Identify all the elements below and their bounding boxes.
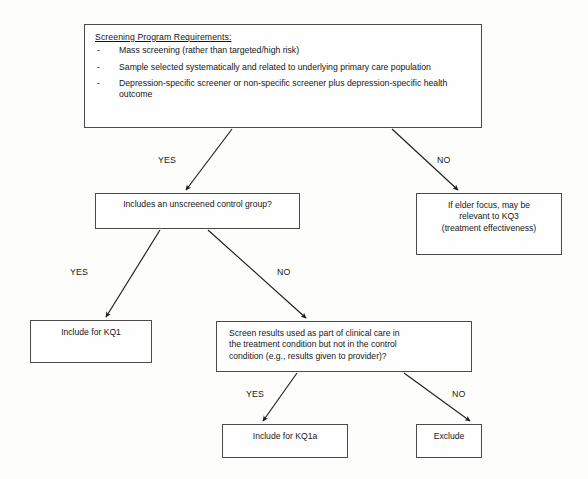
- edge-label-no-screen-results: NO: [452, 389, 466, 399]
- requirements-list: - Mass screening (rather than targeted/h…: [95, 45, 471, 100]
- requirements-item-text: Mass screening (rather than targeted/hig…: [119, 45, 299, 55]
- node-text: Include for KQ1a: [253, 431, 318, 441]
- flowchart-canvas: Screening Program Requirements: - Mass s…: [0, 0, 588, 479]
- node-text: Includes an unscreened control group?: [123, 199, 272, 209]
- node-text-line: Screen results used as part of clinical …: [229, 328, 471, 339]
- node-text: Exclude: [434, 431, 465, 441]
- node-exclude: Exclude: [416, 424, 482, 458]
- node-include-for-kq1a: Include for KQ1a: [222, 424, 348, 458]
- node-includes-unscreened-control-group: Includes an unscreened control group?: [95, 193, 300, 229]
- requirements-item: - Mass screening (rather than targeted/h…: [95, 45, 471, 56]
- requirements-item: - Sample selected systematically and rel…: [95, 62, 471, 73]
- node-screening-program-requirements: Screening Program Requirements: - Mass s…: [84, 24, 482, 128]
- node-text-line: condition (e.g., results given to provid…: [229, 351, 471, 362]
- requirements-item: - Depression-specific screener or non-sp…: [95, 78, 471, 100]
- requirements-heading: Screening Program Requirements:: [95, 32, 471, 43]
- edge-control-group-to-include-kq1: [106, 230, 160, 317]
- edge-screen-results-to-include-kq1a: [263, 373, 297, 421]
- node-text-line: relevant to KQ3: [422, 211, 556, 222]
- node-text-line: (treatment effectiveness): [422, 223, 556, 234]
- node-text-line: If elder focus, may be: [422, 200, 556, 211]
- node-elder-focus-kq3: If elder focus, may be relevant to KQ3 (…: [416, 193, 562, 255]
- edge-label-no-requirements: NO: [437, 155, 451, 165]
- requirements-item-text: Sample selected systematically and relat…: [119, 62, 431, 72]
- bullet-dash-icon: -: [97, 78, 100, 89]
- bullet-dash-icon: -: [97, 45, 100, 56]
- node-text: Include for KQ1: [61, 327, 121, 337]
- edge-label-yes-screen-results: YES: [246, 389, 264, 399]
- requirements-item-text: Depression-specific screener or non-spec…: [119, 78, 447, 99]
- edge-requirements-to-control-group: [186, 129, 232, 190]
- edge-label-yes-requirements: YES: [158, 155, 176, 165]
- node-text-line: the treatment condition but not in the c…: [229, 339, 471, 350]
- edge-label-yes-control-group: YES: [70, 267, 88, 277]
- node-screen-results-clinical-care: Screen results used as part of clinical …: [216, 321, 472, 372]
- node-include-for-kq1: Include for KQ1: [30, 320, 152, 363]
- edge-label-no-control-group: NO: [277, 267, 291, 277]
- edge-control-group-to-screen-results: [208, 230, 306, 318]
- bullet-dash-icon: -: [97, 62, 100, 73]
